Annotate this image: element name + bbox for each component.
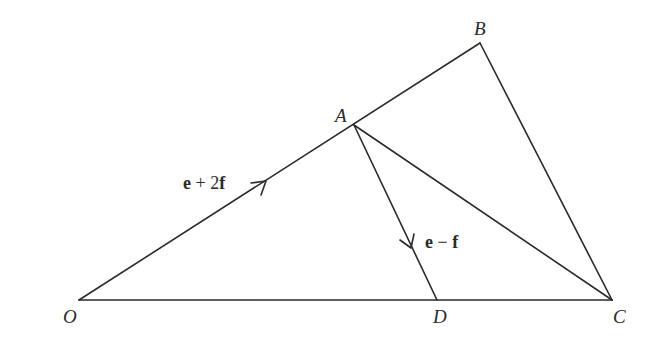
segment-AC xyxy=(354,125,612,300)
point-label-A: A xyxy=(333,105,347,126)
segment-OB xyxy=(79,43,480,300)
vector-triangle-diagram: O A B C D e + 2f e − f xyxy=(0,0,652,352)
segment-BC xyxy=(480,43,612,300)
vector-label-OA: e + 2f xyxy=(183,173,226,193)
point-label-C: C xyxy=(613,306,626,327)
vector-OA-part-e: e xyxy=(183,173,191,193)
point-label-O: O xyxy=(63,306,77,327)
point-label-D: D xyxy=(432,306,447,327)
vector-AD-part-e: e xyxy=(425,232,433,252)
vector-AD-part-minus: − xyxy=(433,232,452,252)
segment-AD xyxy=(354,125,437,300)
vector-OA-part-plus-2: + 2 xyxy=(191,173,219,193)
vector-OA-part-f: f xyxy=(219,173,226,193)
vector-label-AD: e − f xyxy=(425,232,459,252)
vector-AD-part-f: f xyxy=(452,232,459,252)
point-label-B: B xyxy=(474,18,486,39)
